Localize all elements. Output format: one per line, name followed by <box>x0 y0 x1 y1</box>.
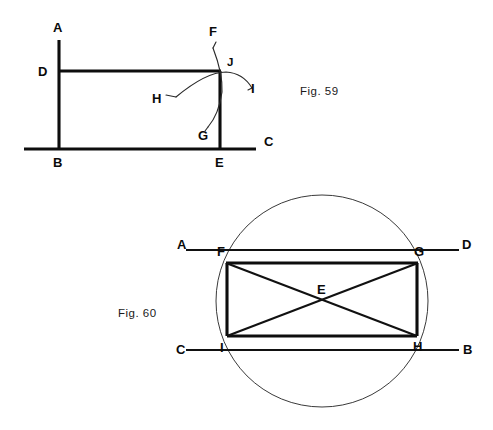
label-fig60-F: F <box>217 244 225 259</box>
caption-fig-59: Fig. 59 <box>300 85 339 97</box>
label-fig59-D: D <box>38 64 47 79</box>
label-fig59-C: C <box>264 134 274 149</box>
leader-H-tick <box>166 95 176 97</box>
label-fig60-E: E <box>317 282 326 297</box>
arc-H-J-I <box>176 72 252 97</box>
caption-fig-60: Fig. 60 <box>118 307 157 319</box>
label-fig59-A: A <box>53 20 63 35</box>
leader-F-tick <box>213 42 216 48</box>
diagram-canvas: A B C D E F G H I J Fig. 59 <box>0 0 493 430</box>
label-fig59-G: G <box>198 128 208 143</box>
label-fig60-A: A <box>177 237 187 252</box>
label-fig59-E: E <box>215 155 224 170</box>
label-fig60-D: D <box>462 237 471 252</box>
label-fig60-C: C <box>176 342 186 357</box>
label-fig60-I: I <box>220 340 224 355</box>
label-fig60-B: B <box>463 342 472 357</box>
figure-sheet: A B C D E F G H I J Fig. 59 <box>0 0 493 430</box>
circumscribed-circle <box>216 195 428 407</box>
label-fig59-I: I <box>251 81 255 96</box>
label-fig59-F: F <box>209 24 217 39</box>
label-fig59-J: J <box>227 56 233 68</box>
figure-60-group: A B C D E F G H I Fig. 60 <box>118 195 472 407</box>
figure-59-group: A B C D E F G H I J Fig. 59 <box>24 20 339 170</box>
label-fig59-B: B <box>53 155 62 170</box>
label-fig60-G: G <box>414 244 424 259</box>
label-fig60-H: H <box>413 339 422 354</box>
label-fig59-H: H <box>152 91 161 106</box>
